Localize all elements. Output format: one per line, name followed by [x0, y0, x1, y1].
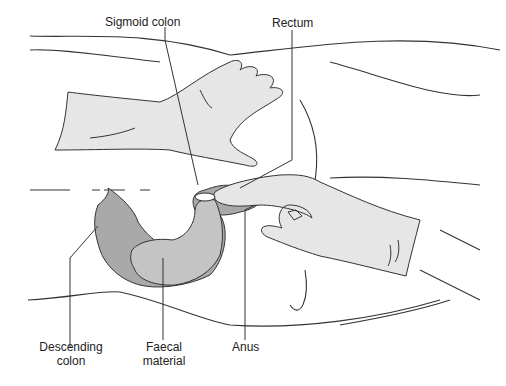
label-faecal-material-line1: Faecal [138, 340, 190, 354]
anus-opening [195, 193, 215, 201]
right-arm-line [420, 270, 480, 300]
label-rectum: Rectum [272, 16, 313, 30]
body-contour-top-right [330, 62, 480, 96]
body-contour-bottom-right [340, 300, 450, 325]
label-anus: Anus [232, 340, 259, 354]
label-descending-colon: Descending colon [36, 340, 106, 368]
anatomy-illustration [0, 0, 506, 386]
diagram-canvas: Sigmoid colon Rectum Descending colon Fa… [0, 0, 506, 386]
label-descending-colon-line2: colon [36, 354, 106, 368]
body-contour-upper [30, 36, 500, 55]
label-sigmoid-colon: Sigmoid colon [105, 15, 180, 29]
body-contour-left [30, 50, 160, 62]
label-descending-colon-line1: Descending [36, 340, 106, 354]
leader-descending-colon [70, 226, 98, 348]
leader-anus [245, 205, 255, 340]
body-contour-lower [28, 292, 440, 326]
right-body-line [330, 177, 480, 185]
right-arm-line-2 [440, 230, 480, 250]
thigh-curve [290, 270, 306, 310]
glove-hand-top [55, 60, 283, 166]
label-faecal-material: Faecal material [138, 340, 190, 368]
label-faecal-material-line2: material [138, 354, 190, 368]
